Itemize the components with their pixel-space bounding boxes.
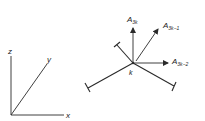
- node-k-label: k: [129, 69, 133, 76]
- force-vectors: A3k A3k−1 A3k−2: [126, 15, 189, 67]
- vector-a3k-minus-2-label: A3k−2: [171, 57, 189, 67]
- vector-a3k-label: A3k: [126, 15, 138, 25]
- z-axis-label: z: [7, 47, 12, 56]
- truss-node-diagram: z y x k A3k A3k−1 A3k−2: [0, 0, 205, 121]
- member-lower-right-end-tick: [172, 82, 176, 91]
- x-axis-label: x: [65, 111, 71, 120]
- coordinate-axes: z y x: [7, 47, 71, 120]
- vector-a3k-minus-1-label: A3k−1: [162, 21, 180, 31]
- members: [85, 42, 176, 92]
- member-lower-left: [88, 63, 133, 88]
- y-axis-label: y: [46, 55, 52, 64]
- y-axis: [11, 64, 47, 115]
- vector-a3k-minus-1-arrow: [136, 29, 158, 61]
- member-upper-left-end-tick: [114, 42, 120, 47]
- member-lower-right: [133, 63, 174, 86]
- member-upper-left: [117, 45, 133, 63]
